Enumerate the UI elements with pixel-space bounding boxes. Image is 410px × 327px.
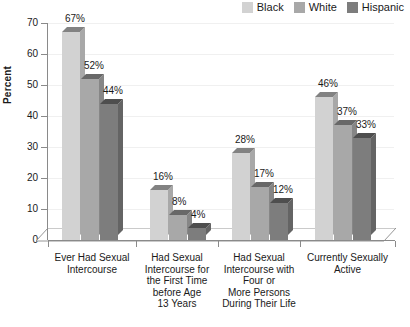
legend-swatch [347, 2, 358, 13]
bar-front-face [169, 215, 187, 240]
bar[interactable] [81, 74, 99, 240]
legend-item[interactable]: White [294, 2, 337, 13]
bar[interactable] [188, 223, 206, 240]
x-axis-tick [395, 241, 396, 247]
legend-item[interactable]: Hispanic [347, 2, 404, 13]
y-axis-tick-label: 40 [27, 111, 38, 121]
bar-front-face [100, 104, 118, 240]
bar[interactable] [251, 182, 269, 240]
y-axis-line [47, 23, 48, 240]
bar-side-face [371, 133, 376, 235]
legend-swatch [294, 2, 305, 13]
bar-value-label: 4% [191, 210, 205, 220]
y-axis-tick-label: 70 [27, 18, 38, 28]
bar-front-face [62, 32, 80, 240]
bar-value-label: 12% [273, 185, 293, 195]
y-axis-title: Percent [2, 66, 13, 104]
bar-side-face [118, 99, 123, 235]
bar-front-face [334, 125, 352, 240]
x-axis-tick [136, 241, 137, 247]
bar[interactable] [315, 92, 333, 240]
bar-front-face [81, 79, 99, 240]
bar[interactable] [150, 185, 168, 240]
bar-value-label: 8% [172, 197, 186, 207]
bar-value-label: 37% [337, 107, 357, 117]
x-axis-category-label: Currently Sexually Active [300, 252, 395, 275]
y-axis-tick-label: 50 [27, 80, 38, 90]
bar-front-face [232, 153, 250, 240]
bar[interactable] [232, 148, 250, 240]
gridline [48, 54, 394, 55]
x-axis-category-label: Had Sexual Intercourse for the First Tim… [136, 252, 218, 310]
bar-value-label: 33% [356, 120, 376, 130]
gridline [48, 23, 394, 24]
bar-front-face [353, 138, 371, 240]
bar-front-face [188, 228, 206, 240]
x-axis-line [48, 240, 395, 241]
legend-label: Black [257, 2, 284, 13]
x-axis-category-label: Ever Had Sexual Intercourse [48, 252, 136, 275]
bar[interactable] [270, 198, 288, 240]
legend-label: White [309, 2, 337, 13]
bar[interactable] [169, 210, 187, 240]
y-axis-tick-label: 30 [27, 142, 38, 152]
bar[interactable] [100, 99, 118, 240]
bar-front-face [150, 190, 168, 240]
bar-value-label: 52% [84, 61, 104, 71]
bar[interactable] [334, 120, 352, 240]
legend-label: Hispanic [362, 2, 404, 13]
y-axis-tick-label: 20 [27, 173, 38, 183]
y-axis-tick-label: 60 [27, 49, 38, 59]
bar-value-label: 44% [103, 86, 123, 96]
bar-chart: BlackWhiteHispanic Percent 0102030405060… [0, 0, 410, 327]
bar[interactable] [62, 27, 80, 240]
x-axis-tick [300, 241, 301, 247]
x-axis-tick [218, 241, 219, 247]
x-axis-category-label: Had Sexual Intercourse with Four or More… [218, 252, 300, 310]
bar[interactable] [353, 133, 371, 240]
x-axis-tick [48, 241, 49, 247]
legend-item[interactable]: Black [242, 2, 284, 13]
bar-value-label: 17% [254, 169, 274, 179]
bar-value-label: 16% [153, 172, 173, 182]
legend-swatch [242, 2, 253, 13]
bar-side-face [288, 198, 293, 235]
bar-front-face [270, 203, 288, 240]
bar-value-label: 67% [65, 14, 85, 24]
chart-legend: BlackWhiteHispanic [242, 2, 404, 13]
bar-front-face [315, 97, 333, 240]
y-axis-tick-label: 10 [27, 204, 38, 214]
bar-value-label: 28% [235, 135, 255, 145]
bar-front-face [251, 187, 269, 240]
bar-value-label: 46% [318, 79, 338, 89]
